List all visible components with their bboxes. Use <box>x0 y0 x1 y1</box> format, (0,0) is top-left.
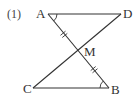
label-point-A: A <box>36 6 46 21</box>
label-point-M: M <box>84 44 96 59</box>
segment-AB <box>48 14 109 88</box>
label-point-C: C <box>23 81 32 96</box>
segment-CD <box>33 14 121 88</box>
label-point-D: D <box>123 6 132 21</box>
geometry-figure: (1) A D C B M <box>0 0 138 99</box>
label-point-B: B <box>111 82 120 97</box>
angle-arc-A <box>54 14 57 21</box>
problem-number: (1) <box>7 7 21 21</box>
angle-arc-B <box>100 81 103 88</box>
